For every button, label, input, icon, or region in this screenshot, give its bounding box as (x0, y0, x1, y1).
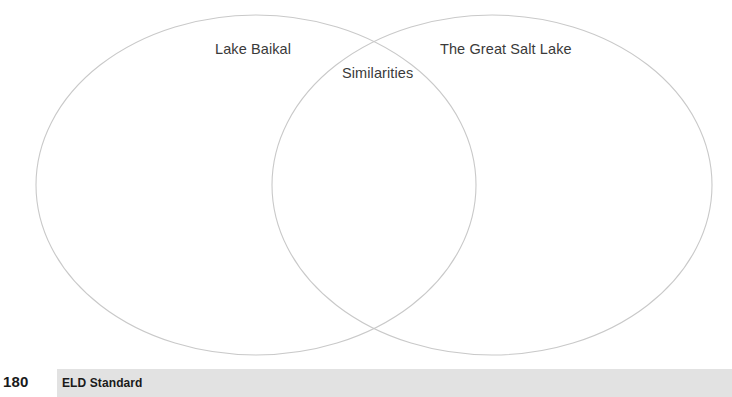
venn-circle-right (272, 15, 712, 355)
page-footer: 180 ELD Standard (0, 369, 732, 397)
footer-standard-label: ELD Standard (62, 377, 143, 389)
venn-circles-svg (0, 0, 732, 360)
venn-label-overlap: Similarities (342, 66, 413, 81)
venn-label-left: Lake Baikal (215, 42, 291, 57)
venn-label-right: The Great Salt Lake (440, 42, 572, 57)
page-number: 180 (3, 374, 29, 389)
venn-diagram: Lake Baikal The Great Salt Lake Similari… (0, 0, 732, 360)
footer-band (57, 369, 732, 397)
